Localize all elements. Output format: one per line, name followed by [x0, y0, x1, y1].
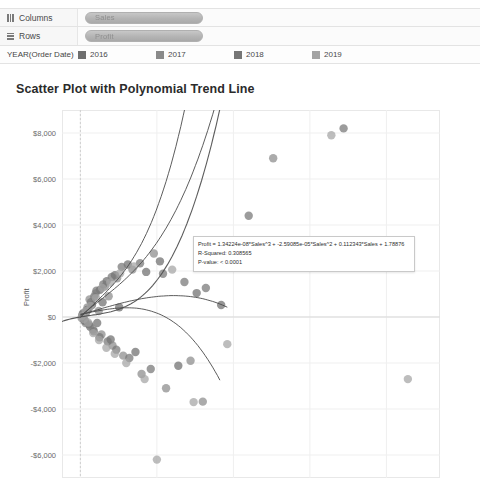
data-point[interactable]	[111, 350, 119, 358]
data-point[interactable]	[199, 397, 207, 405]
legend-label-2018: 2018	[246, 50, 264, 59]
scatter-svg	[62, 110, 440, 478]
data-point[interactable]	[269, 154, 277, 162]
plot-border	[63, 111, 440, 478]
data-point[interactable]	[174, 362, 182, 370]
y-tick-label: $8,000	[33, 129, 60, 138]
legend-swatch-2017	[156, 51, 164, 59]
y-tick-label: $4,000	[33, 221, 60, 230]
tooltip-equation: Profit = 1.34224e-08*Sales^3 + -2.59085e…	[198, 240, 410, 249]
columns-grip-icon	[7, 14, 14, 22]
columns-shelf[interactable]: Columns Sales	[0, 8, 480, 27]
y-axis-ticks: $8,000$6,000$4,000$2,000$0-$2,000-$4,000…	[0, 110, 60, 440]
legend-items: 2016 2017 2018 2019	[78, 50, 390, 59]
scatter-plot-canvas	[62, 110, 440, 478]
shelf-area: Columns Sales Rows Profit YEAR(Order Dat…	[0, 8, 480, 64]
data-point[interactable]	[404, 375, 412, 383]
data-point[interactable]	[186, 357, 194, 365]
data-point[interactable]	[223, 340, 231, 348]
data-point[interactable]	[202, 284, 210, 292]
tooltip-r-squared: R-Squared: 0.308565	[198, 249, 410, 258]
legend-item-2017[interactable]: 2017	[156, 50, 234, 59]
y-tick-label: $6,000	[33, 175, 60, 184]
columns-shelf-label: Columns	[0, 9, 78, 26]
legend-swatch-2018	[234, 51, 242, 59]
pill-profit[interactable]: Profit	[85, 30, 203, 42]
y-tick-label: $0	[48, 313, 60, 322]
data-point[interactable]	[327, 131, 335, 139]
data-point[interactable]	[89, 329, 97, 337]
visualization-pane: Scatter Plot with Polynomial Trend Line …	[0, 70, 480, 462]
legend-label-2016: 2016	[90, 50, 108, 59]
data-point[interactable]	[162, 384, 170, 392]
data-point[interactable]	[102, 344, 110, 352]
data-point[interactable]	[142, 268, 150, 276]
rows-field-area[interactable]: Profit	[78, 30, 480, 42]
data-point[interactable]	[192, 289, 200, 297]
data-point[interactable]	[180, 278, 188, 286]
columns-field-area[interactable]: Sales	[78, 12, 480, 24]
data-point[interactable]	[168, 265, 176, 273]
trend-line-tooltip: Profit = 1.34224e-08*Sales^3 + -2.59085e…	[193, 236, 415, 272]
legend-swatch-2016	[78, 51, 86, 59]
legend-title: YEAR(Order Date)	[0, 50, 78, 59]
data-point[interactable]	[122, 359, 130, 367]
rows-grip-icon	[7, 32, 14, 40]
data-point[interactable]	[245, 212, 253, 220]
data-point[interactable]	[147, 365, 155, 373]
data-point[interactable]	[339, 124, 347, 132]
rows-shelf[interactable]: Rows Profit	[0, 27, 480, 46]
data-point[interactable]	[140, 375, 148, 383]
data-point[interactable]	[84, 318, 92, 326]
legend-label-2019: 2019	[324, 50, 342, 59]
y-tick-label: -$4,000	[31, 405, 60, 414]
data-point[interactable]	[189, 398, 197, 406]
data-point[interactable]	[95, 336, 103, 344]
page-title: Scatter Plot with Polynomial Trend Line	[16, 82, 255, 96]
columns-label-text: Columns	[19, 13, 53, 23]
y-tick-label: -$2,000	[31, 359, 60, 368]
data-point[interactable]	[156, 257, 164, 265]
data-point[interactable]	[153, 455, 161, 463]
y-tick-label: -$6,000	[31, 451, 60, 460]
color-legend: YEAR(Order Date) 2016 2017 2018 2019	[0, 46, 480, 64]
tooltip-p-value: P-value: < 0.0001	[198, 258, 410, 267]
data-point[interactable]	[98, 284, 106, 292]
rows-label-text: Rows	[19, 31, 40, 41]
legend-item-2018[interactable]: 2018	[234, 50, 312, 59]
legend-label-2017: 2017	[168, 50, 186, 59]
pill-sales[interactable]: Sales	[85, 12, 203, 24]
rows-shelf-label: Rows	[0, 27, 78, 45]
y-tick-label: $2,000	[33, 267, 60, 276]
legend-swatch-2019	[312, 51, 320, 59]
data-point[interactable]	[130, 262, 138, 270]
legend-item-2019[interactable]: 2019	[312, 50, 390, 59]
data-point[interactable]	[131, 348, 139, 356]
legend-item-2016[interactable]: 2016	[78, 50, 156, 59]
data-point[interactable]	[106, 278, 114, 286]
